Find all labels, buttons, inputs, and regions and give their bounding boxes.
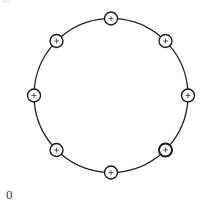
ring-edge (169, 45, 187, 89)
ring-node[interactable] (159, 144, 172, 157)
ring-node[interactable] (105, 12, 118, 25)
ring-edge (117, 154, 161, 172)
ring-node[interactable] (50, 35, 63, 48)
ring-node[interactable] (28, 89, 41, 102)
ring-edge (61, 19, 105, 37)
origin-label: 0 (6, 188, 13, 202)
node-layer (28, 12, 195, 179)
ring-edge (34, 101, 52, 145)
ring-node[interactable] (159, 35, 172, 48)
ring-edge (61, 154, 105, 172)
figure-canvas: 0 (0, 0, 207, 211)
ring-graph-figure (0, 0, 207, 211)
ring-node[interactable] (50, 144, 63, 157)
ring-node[interactable] (105, 166, 118, 179)
ring-edge (34, 45, 52, 89)
ring-edge (169, 101, 187, 145)
ring-node[interactable] (182, 89, 195, 102)
ring-edge (117, 19, 161, 37)
